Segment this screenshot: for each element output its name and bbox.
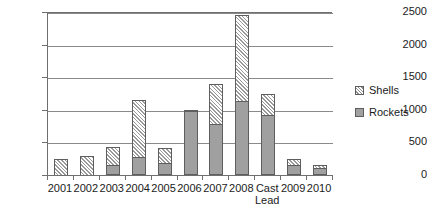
x-axis-tick-mark: [254, 175, 255, 180]
bar-segment-shells: [54, 159, 68, 175]
x-axis-tick-label: 2001: [47, 182, 73, 194]
x-axis-tick-mark: [151, 175, 152, 180]
bar-segment-rockets: [184, 111, 198, 175]
legend-label: Rockets: [369, 107, 409, 118]
x-axis-tick-mark: [202, 175, 203, 180]
legend-swatch-rockets-icon: [355, 108, 364, 117]
chart-legend: ShellsRockets: [355, 85, 409, 129]
bar-segment-rockets: [106, 165, 120, 175]
legend-item: Rockets: [355, 107, 409, 118]
bar-stack: [80, 156, 94, 175]
bar-stack: [287, 159, 301, 175]
y-axis-tick-label: 500: [389, 136, 427, 147]
bar-segment-shells: [158, 148, 172, 163]
x-axis-tick-mark: [47, 175, 48, 180]
bar-stack: [54, 159, 68, 175]
bar-segment-shells: [80, 156, 94, 175]
x-axis-tick-label: 2003: [99, 182, 125, 194]
bar-segment-shells: [132, 100, 146, 157]
bar-stack: [132, 100, 146, 175]
bar-segment-shells: [261, 94, 275, 115]
x-axis-tick-mark: [332, 175, 333, 180]
bar-segment-rockets: [287, 165, 301, 175]
x-axis-tick-mark: [280, 175, 281, 180]
legend-swatch-shells-icon: [355, 86, 364, 95]
y-axis-tick-label: 0: [389, 169, 427, 180]
bar-segment-shells: [106, 147, 120, 165]
x-axis-tick-mark: [73, 175, 74, 180]
gridline: [48, 46, 333, 47]
x-axis-tick-mark: [306, 175, 307, 180]
bar-segment-rockets: [313, 168, 327, 175]
legend-item: Shells: [355, 85, 409, 96]
x-axis-tick-label: Cast Lead: [254, 182, 280, 206]
x-axis-tick-mark: [177, 175, 178, 180]
bar-stack: [106, 147, 120, 175]
chart-figure: 05001000150020002500 2001200220032004200…: [0, 0, 427, 216]
bar-stack: [313, 165, 327, 175]
x-axis-tick-mark: [125, 175, 126, 180]
bar-segment-rockets: [209, 124, 223, 175]
x-axis-tick-label: 2009: [280, 182, 306, 194]
x-axis-tick-mark: [228, 175, 229, 180]
gridline: [48, 13, 333, 14]
plot-area: [47, 12, 332, 175]
x-axis-tick-mark: [99, 175, 100, 180]
bar-segment-rockets: [158, 163, 172, 175]
y-axis-tick-label: 1500: [389, 71, 427, 82]
y-axis-tick-label: 2500: [389, 6, 427, 17]
x-axis-tick-label: 2005: [151, 182, 177, 194]
bar-segment-rockets: [132, 157, 146, 175]
bar-stack: [209, 84, 223, 175]
x-axis-tick-label: 2010: [306, 182, 332, 194]
bar-segment-rockets: [261, 115, 275, 175]
x-axis-tick-label: 2002: [73, 182, 99, 194]
bar-stack: [158, 148, 172, 175]
bar-segment-shells: [209, 84, 223, 124]
gridline: [48, 78, 333, 79]
legend-label: Shells: [369, 85, 399, 96]
x-axis-tick-label: 2008: [228, 182, 254, 194]
bar-segment-rockets: [235, 101, 249, 175]
x-axis-tick-label: 2004: [125, 182, 151, 194]
bar-segment-shells: [235, 15, 249, 100]
x-axis-tick-label: 2006: [177, 182, 203, 194]
bar-stack: [235, 15, 249, 175]
bar-stack: [261, 94, 275, 175]
y-axis-tick-label: 2000: [389, 39, 427, 50]
bar-stack: [184, 110, 198, 175]
x-axis-line: [47, 175, 332, 176]
x-axis-tick-label: 2007: [202, 182, 228, 194]
